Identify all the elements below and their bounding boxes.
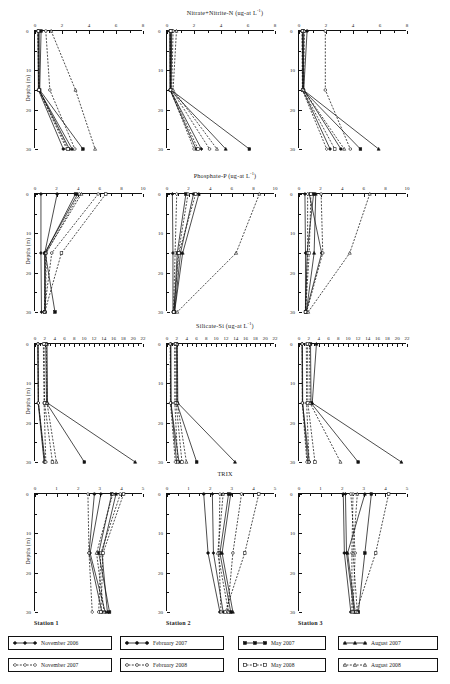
x-tick-label: 4 bbox=[120, 486, 123, 491]
x-major-tick bbox=[143, 494, 144, 497]
legend-item-february-2007[interactable]: February 2007 bbox=[120, 636, 224, 650]
panel-nitrate-station-3: 024680102030 bbox=[298, 16, 406, 158]
x-tick-label: 1 bbox=[55, 486, 58, 491]
legend-label: November 2007 bbox=[41, 662, 79, 668]
y-tick-label: 10 bbox=[290, 68, 295, 73]
x-major-tick bbox=[407, 344, 408, 347]
station-label-3: Station 3 bbox=[298, 620, 323, 626]
x-tick-label: 16 bbox=[111, 336, 116, 341]
x-tick-label: 4 bbox=[53, 336, 56, 341]
y-tick-label: 0 bbox=[290, 192, 293, 197]
y-tick-label: 30 bbox=[26, 460, 31, 465]
legend-swatch-icon bbox=[12, 661, 38, 669]
station-label-2: Station 2 bbox=[166, 620, 191, 626]
panel-phosphate-station-3: 02468100102030 bbox=[298, 179, 406, 321]
x-tick-label: 5 bbox=[274, 486, 277, 491]
x-tick-label: 12 bbox=[91, 336, 96, 341]
legend-item-may-2007[interactable]: May 2007 bbox=[238, 636, 326, 650]
plot-area: 024680102030 bbox=[298, 30, 406, 148]
y-axis-title: Depths (m) bbox=[25, 221, 31, 281]
legend-line-icon bbox=[124, 661, 150, 669]
y-axis-title: Depths (m) bbox=[25, 371, 31, 431]
x-tick-label: 0 bbox=[34, 186, 37, 191]
x-tick-label: 2 bbox=[341, 486, 344, 491]
legend-item-november-2007[interactable]: November 2007 bbox=[8, 658, 112, 672]
panel-row-nitrate: 024680102030Depths (m)024680102030024680… bbox=[0, 16, 450, 158]
x-major-tick bbox=[143, 194, 144, 197]
x-tick-label: 8 bbox=[252, 186, 255, 191]
x-tick-label: 2 bbox=[319, 186, 322, 191]
y-tick-label: 30 bbox=[290, 460, 295, 465]
panel-trix-station-1: 0123450102030Depths (m)Station 1 bbox=[34, 479, 142, 621]
y-tick-label: 20 bbox=[290, 107, 295, 112]
series-layer bbox=[35, 494, 143, 612]
x-tick-label: 0 bbox=[298, 186, 301, 191]
x-tick-label: 1 bbox=[187, 486, 190, 491]
section-trix: TRIX0123450102030Depths (m)Station 10123… bbox=[0, 469, 450, 621]
x-major-tick bbox=[407, 194, 408, 197]
x-tick-label: 10 bbox=[405, 186, 410, 191]
plot-area: 0123450102030 bbox=[34, 493, 142, 611]
legend-line-icon bbox=[342, 661, 368, 669]
section-silicate: Silicate-Si (ug-at L-1)02468101214161820… bbox=[0, 319, 450, 471]
x-tick-label: 3 bbox=[99, 486, 102, 491]
y-tick-label: 20 bbox=[290, 420, 295, 425]
legend-item-february-2008[interactable]: February 2008 bbox=[120, 658, 224, 672]
plot-area: 024680102030 bbox=[34, 30, 142, 148]
y-tick bbox=[167, 149, 170, 150]
legend-item-august-2007[interactable]: August 2007 bbox=[338, 636, 438, 650]
x-tick-label: 3 bbox=[231, 486, 234, 491]
plot-area: 02468101214161820220102030 bbox=[166, 343, 274, 461]
x-tick-label: 10 bbox=[273, 186, 278, 191]
y-tick-label: 10 bbox=[290, 231, 295, 236]
x-tick-label: 1 bbox=[319, 486, 322, 491]
x-tick-label: 6 bbox=[115, 23, 118, 28]
y-tick-label: 30 bbox=[158, 460, 163, 465]
x-tick-label: 6 bbox=[379, 23, 382, 28]
section-title-silicate: Silicate-Si (ug-at L-1) bbox=[0, 319, 450, 329]
x-tick-label: 8 bbox=[274, 23, 277, 28]
y-tick-label: 0 bbox=[26, 29, 29, 34]
y-tick bbox=[299, 312, 302, 313]
y-tick-label: 30 bbox=[290, 610, 295, 615]
x-tick-label: 20 bbox=[131, 336, 136, 341]
legend-swatch-icon bbox=[124, 661, 150, 669]
y-axis-title: Depths (m) bbox=[25, 58, 31, 118]
legend-swatch-icon bbox=[124, 639, 150, 647]
x-tick-label: 2 bbox=[176, 336, 179, 341]
legend-swatch-icon bbox=[342, 661, 368, 669]
y-tick bbox=[35, 612, 38, 613]
legend-item-august-2008[interactable]: August 2008 bbox=[338, 658, 438, 672]
y-tick-label: 10 bbox=[158, 531, 163, 536]
x-tick-label: 0 bbox=[166, 486, 169, 491]
x-tick-label: 4 bbox=[341, 186, 344, 191]
x-major-tick bbox=[275, 31, 276, 34]
legend-swatch-icon bbox=[242, 661, 268, 669]
panel-silicate-station-1: 02468101214161820220102030Depths (m) bbox=[34, 329, 142, 471]
x-tick-label: 0 bbox=[166, 23, 169, 28]
x-tick-label: 18 bbox=[253, 336, 258, 341]
y-tick bbox=[167, 462, 170, 463]
legend-label: November 2006 bbox=[41, 640, 79, 646]
legend-label: February 2007 bbox=[153, 640, 187, 646]
section-nitrate: Nitrate+Nitrite-N (ug-at L-1)02468010203… bbox=[0, 6, 450, 158]
legend-swatch-icon bbox=[242, 639, 268, 647]
legend-line-icon bbox=[242, 639, 268, 647]
y-tick-label: 20 bbox=[290, 570, 295, 575]
x-tick-label: 22 bbox=[405, 336, 410, 341]
x-tick-label: 0 bbox=[34, 23, 37, 28]
x-tick-label: 16 bbox=[243, 336, 248, 341]
y-tick-label: 0 bbox=[26, 492, 29, 497]
x-tick-label: 6 bbox=[63, 336, 66, 341]
legend-item-may-2008[interactable]: May 2008 bbox=[238, 658, 326, 672]
x-tick-label: 12 bbox=[355, 336, 360, 341]
x-tick-label: 2 bbox=[325, 23, 328, 28]
x-major-tick bbox=[275, 494, 276, 497]
x-tick-label: 5 bbox=[406, 486, 409, 491]
y-tick-label: 30 bbox=[290, 310, 295, 315]
x-major-tick bbox=[407, 494, 408, 497]
legend-item-november-2006[interactable]: November 2006 bbox=[8, 636, 112, 650]
y-tick-label: 20 bbox=[158, 270, 163, 275]
x-tick-label: 0 bbox=[298, 486, 301, 491]
series-layer bbox=[299, 494, 407, 612]
